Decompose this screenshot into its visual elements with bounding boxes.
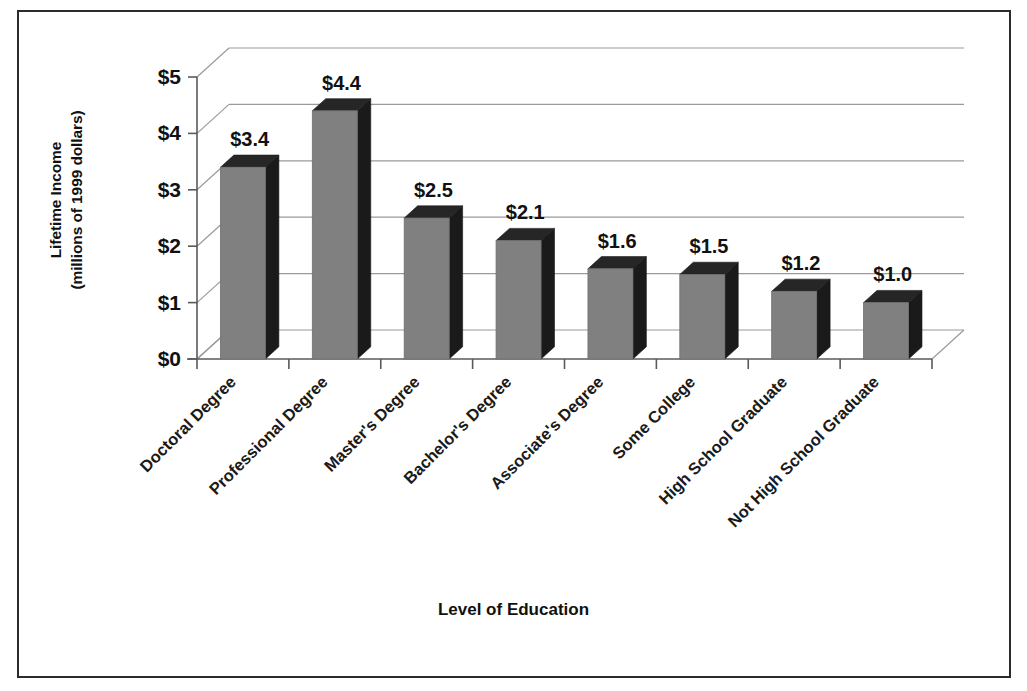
chart-figure: Lifetime Income (millions of 1999 dollar… [0, 0, 1027, 691]
bar-column [772, 279, 830, 359]
axes-group [187, 77, 964, 369]
bar-value-label: $2.1 [506, 201, 545, 223]
bar-column [220, 155, 278, 359]
bar-value-label: $1.0 [873, 263, 912, 285]
x-axis-title: Level of Education [0, 600, 1027, 620]
bar-column [588, 257, 646, 359]
bar-value-label: $1.2 [781, 252, 820, 274]
bar-value-label: $1.6 [598, 230, 637, 252]
bar-column [312, 99, 370, 359]
x-tick-label: Some College [609, 372, 699, 462]
bar-chart-plot: $0$1$2$3$4$5 $3.4$4.4$2.5$2.1$1.6$1.5$1.… [0, 0, 1027, 691]
x-tick-label: Master's Degree [320, 372, 422, 474]
y-tick-label: $0 [158, 347, 181, 370]
bar-value-label: $3.4 [230, 128, 270, 150]
y-tick-label: $3 [158, 178, 181, 201]
x-tick-label: Doctoral Degree [136, 372, 239, 475]
x-tick-label: Not High School Graduate [724, 372, 882, 530]
y-tick-label: $1 [158, 291, 182, 314]
y-tick-labels-group: $0$1$2$3$4$5 [158, 65, 182, 370]
bar-column [404, 206, 462, 359]
bar-column [496, 228, 554, 359]
y-tick-label: $2 [158, 234, 181, 257]
x-tick-labels-group: Doctoral DegreeProfessional DegreeMaster… [136, 372, 882, 530]
bar-value-label: $4.4 [322, 72, 362, 94]
bars-group [220, 99, 922, 359]
bar-column [864, 290, 922, 359]
bar-value-label: $2.5 [414, 179, 453, 201]
y-tick-label: $5 [158, 65, 182, 88]
bar-value-label: $1.5 [690, 235, 729, 257]
y-tick-label: $4 [158, 121, 182, 144]
bar-column [680, 262, 738, 359]
